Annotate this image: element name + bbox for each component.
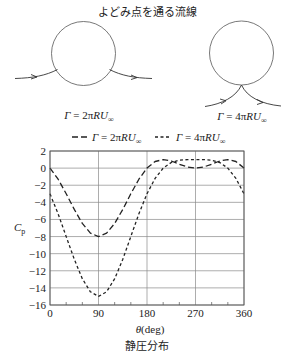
streamline-outgoing [110, 70, 153, 79]
subscript-infinity: ∞ [108, 115, 114, 124]
equals-part: = 2π [98, 131, 121, 143]
y-tick-label: −8 [34, 231, 46, 243]
x-tick-label: 0 [47, 307, 53, 319]
x-axis-label: θ(deg) [136, 323, 165, 336]
variable-part: RU [120, 131, 137, 143]
variable-part: RU [204, 131, 221, 143]
diagram-gamma-2pi: Γ = 2πRU∞ [15, 22, 152, 124]
x-tick-label: 270 [187, 307, 204, 319]
variable-part: RU [92, 109, 109, 121]
x-tick-label: 90 [93, 307, 105, 319]
y-tick-label: 2 [41, 145, 47, 157]
y-tick-label: −16 [29, 299, 47, 311]
plot-grid [50, 151, 244, 305]
streamline-title: よどみ点を通る流線 [98, 5, 197, 18]
chart-legend: Γ = 2πRU∞ Γ = 4πRU∞ [72, 131, 226, 146]
y-tick-label: 0 [41, 162, 47, 174]
y-tick-label: −10 [29, 248, 47, 260]
cylinder-circle [52, 22, 116, 86]
equals-part: = 2π [71, 109, 94, 121]
diagram-label: Γ = 2πRU∞ [63, 109, 114, 124]
y-tick-label: −4 [34, 196, 46, 208]
equals-part: = 4π [224, 110, 247, 122]
subscript-infinity: ∞ [220, 137, 226, 146]
x-tick-label: 360 [236, 307, 253, 319]
plot-ticks: 20−2−4−6−8−10−12−14−16090180270360 [29, 145, 253, 319]
x-tick-label: 180 [139, 307, 156, 319]
variable-part: RU [245, 110, 262, 122]
legend-label-4pi: Γ = 4πRU∞ [175, 131, 226, 146]
x-unit: (deg) [141, 323, 165, 336]
y-tick-label: −6 [34, 213, 46, 225]
figure: よどみ点を通る流線 Γ = 2πRU∞ Γ = 4πRU∞ Γ = 2πRU∞ … [0, 0, 283, 357]
cp-subscript: p [21, 227, 25, 236]
arrow-right-icon [257, 100, 263, 105]
legend-label-2pi: Γ = 2πRU∞ [91, 131, 142, 146]
subscript-infinity: ∞ [136, 137, 142, 146]
diagram-gamma-4pi: Γ = 4πRU∞ [205, 21, 281, 125]
subscript-infinity: ∞ [261, 116, 267, 125]
equals-part: = 4π [182, 131, 205, 143]
cylinder-circle [210, 21, 274, 85]
y-tick-label: −12 [29, 265, 46, 277]
diagram-label: Γ = 4πRU∞ [216, 110, 267, 125]
y-tick-label: −14 [29, 282, 47, 294]
y-axis-label: Cp [14, 221, 25, 236]
streamline-incoming [205, 85, 242, 107]
y-tick-label: −2 [34, 179, 46, 191]
chart-caption: 静圧分布 [125, 339, 169, 352]
